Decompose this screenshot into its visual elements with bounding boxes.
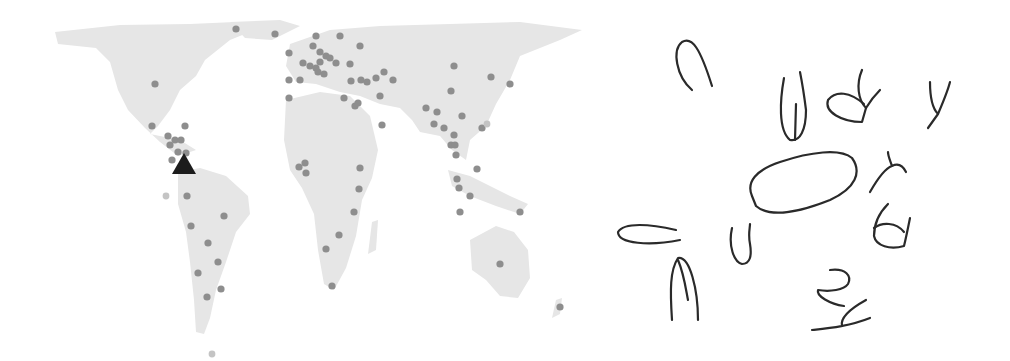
location-dot[interactable] [285, 76, 292, 83]
location-dot[interactable] [363, 78, 370, 85]
location-dot[interactable] [320, 70, 327, 77]
location-dot-faint [484, 121, 491, 128]
location-dot[interactable] [148, 122, 155, 129]
land-africa [284, 92, 378, 290]
location-dot[interactable] [455, 184, 462, 191]
location-dot[interactable] [220, 212, 227, 219]
sketch-stroke-y-shape [928, 82, 950, 128]
sketch-stroke-s-curve [818, 270, 849, 306]
location-dot[interactable] [458, 112, 465, 119]
location-dot[interactable] [204, 239, 211, 246]
location-dot[interactable] [347, 77, 354, 84]
location-dot[interactable] [316, 48, 323, 55]
location-dot[interactable] [456, 208, 463, 215]
location-dot[interactable] [466, 192, 473, 199]
location-dot[interactable] [299, 59, 306, 66]
land-north-america [55, 22, 265, 156]
location-dot[interactable] [354, 99, 361, 106]
location-dot[interactable] [496, 260, 503, 267]
sketch-stroke-u-inner [795, 104, 796, 140]
location-dot[interactable] [447, 87, 454, 94]
location-dot[interactable] [217, 285, 224, 292]
location-dot[interactable] [516, 208, 523, 215]
sketch-stroke-left-loop [618, 225, 680, 243]
location-dot[interactable] [450, 131, 457, 138]
sketch-stroke-arch [677, 41, 712, 90]
location-dot[interactable] [433, 108, 440, 115]
location-dot-faint [163, 193, 170, 200]
location-dot[interactable] [295, 163, 302, 170]
location-dot[interactable] [285, 49, 292, 56]
location-dot[interactable] [506, 80, 513, 87]
location-dot[interactable] [450, 62, 457, 69]
location-dot[interactable] [174, 148, 181, 155]
location-dot[interactable] [335, 231, 342, 238]
location-dot[interactable] [232, 25, 239, 32]
location-dot[interactable] [296, 76, 303, 83]
hand-drawn-sketches [600, 0, 1010, 361]
land-indonesia [448, 170, 528, 214]
location-dot[interactable] [181, 122, 188, 129]
location-dot[interactable] [316, 58, 323, 65]
sketch-stroke-capsule [750, 152, 856, 212]
location-dot[interactable] [271, 30, 278, 37]
location-dot[interactable] [556, 303, 563, 310]
location-dot[interactable] [177, 136, 184, 143]
location-dot[interactable] [440, 124, 447, 131]
location-dot[interactable] [452, 151, 459, 158]
sketch-stroke-heart-tail [859, 70, 866, 108]
sketch-stroke-r-inner [874, 224, 904, 232]
location-dot[interactable] [355, 185, 362, 192]
location-dot[interactable] [203, 293, 210, 300]
location-dot[interactable] [350, 208, 357, 215]
location-dot[interactable] [301, 159, 308, 166]
location-dot[interactable] [168, 156, 175, 163]
sketch-stroke-fork [870, 152, 906, 192]
location-dot[interactable] [451, 141, 458, 148]
location-dot[interactable] [389, 76, 396, 83]
location-dot[interactable] [376, 92, 383, 99]
location-dot[interactable] [326, 54, 333, 61]
location-dot[interactable] [309, 42, 316, 49]
location-dot[interactable] [322, 245, 329, 252]
land-greenland [230, 20, 300, 40]
location-dot[interactable] [336, 32, 343, 39]
location-dot[interactable] [302, 169, 309, 176]
location-dot[interactable] [187, 222, 194, 229]
location-dot[interactable] [194, 269, 201, 276]
location-dot[interactable] [422, 104, 429, 111]
location-dot[interactable] [346, 60, 353, 67]
location-dot[interactable] [340, 94, 347, 101]
location-dot[interactable] [151, 80, 158, 87]
selected-location-marker[interactable] [172, 153, 196, 174]
location-dot[interactable] [372, 74, 379, 81]
location-dot[interactable] [166, 141, 173, 148]
location-dot[interactable] [487, 73, 494, 80]
location-dot[interactable] [214, 258, 221, 265]
location-dot[interactable] [453, 175, 460, 182]
location-dot[interactable] [430, 120, 437, 127]
location-dot[interactable] [356, 164, 363, 171]
sketch-stroke-double-arch [671, 258, 698, 320]
location-dot[interactable] [378, 121, 385, 128]
sketch-stroke-u-shape [781, 72, 806, 140]
location-dot[interactable] [164, 132, 171, 139]
location-dot[interactable] [473, 165, 480, 172]
location-dot[interactable] [328, 282, 335, 289]
location-dot[interactable] [285, 94, 292, 101]
location-dot-faint [209, 351, 216, 358]
location-dot[interactable] [312, 32, 319, 39]
location-dot[interactable] [380, 68, 387, 75]
location-dot[interactable] [332, 59, 339, 66]
sketch-stroke-heart-loop [827, 90, 880, 122]
land-madagascar [368, 220, 378, 254]
sketch-stroke-hook [731, 224, 751, 264]
world-map [0, 0, 600, 361]
location-dot[interactable] [356, 42, 363, 49]
location-dot[interactable] [183, 192, 190, 199]
